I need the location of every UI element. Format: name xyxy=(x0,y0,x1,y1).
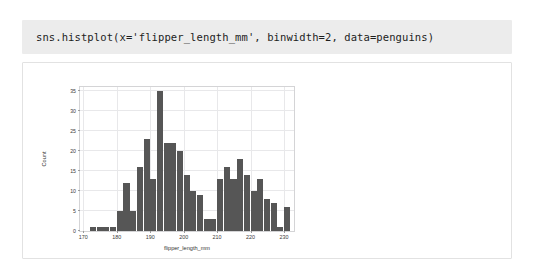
y-tick-label: 15 xyxy=(70,168,76,173)
screenshot-root: sns.histplot(x='flipper_length_mm', binw… xyxy=(0,0,540,278)
histogram-bar xyxy=(90,227,96,231)
histogram-bar xyxy=(264,199,270,231)
histogram-bar xyxy=(177,151,183,231)
x-tick-mark xyxy=(251,231,252,233)
histogram-bar xyxy=(144,139,150,231)
x-tick-mark xyxy=(184,231,185,233)
histogram-bar xyxy=(257,179,263,231)
code-cell-source[interactable]: sns.histplot(x='flipper_length_mm', binw… xyxy=(22,31,434,43)
y-axis-label: Count xyxy=(42,152,48,167)
y-tick-mark xyxy=(78,150,80,151)
x-tick-label: 210 xyxy=(213,235,222,240)
y-tick-label: 0 xyxy=(73,228,76,233)
histogram-bar xyxy=(271,203,277,231)
y-tick-label: 10 xyxy=(70,188,76,193)
x-tick-label: 230 xyxy=(279,235,288,240)
y-tick-label: 30 xyxy=(70,108,76,113)
histogram-bar xyxy=(150,179,156,231)
histogram-bar xyxy=(284,207,290,231)
histogram-bar xyxy=(217,179,223,231)
y-tick-label: 5 xyxy=(73,208,76,213)
histogram-bar xyxy=(130,211,136,231)
histogram-bar xyxy=(237,159,243,231)
y-tick-label: 20 xyxy=(70,148,76,153)
histogram-bar xyxy=(103,227,109,231)
histogram-bar xyxy=(251,191,257,231)
histogram-bar xyxy=(137,167,143,231)
x-axis-label: flipper_length_mm xyxy=(79,246,295,252)
plot-axes: 05101520253035 170180190200210220230 xyxy=(79,86,295,232)
histogram-bar xyxy=(170,143,176,231)
histogram-bar xyxy=(197,195,203,231)
x-tick-mark xyxy=(117,231,118,233)
histogram-figure: 05101520253035 170180190200210220230 fli… xyxy=(31,68,306,253)
x-tick-mark xyxy=(217,231,218,233)
y-tick-label: 25 xyxy=(70,128,76,133)
y-tick-mark xyxy=(78,110,80,111)
histogram-bar xyxy=(184,175,190,231)
histogram-bar xyxy=(244,175,250,231)
x-tick-label: 170 xyxy=(79,235,88,240)
histogram-bar xyxy=(110,227,116,231)
histogram-bar xyxy=(190,191,196,231)
x-tick-mark xyxy=(150,231,151,233)
histogram-bar xyxy=(230,179,236,231)
x-tick-label: 180 xyxy=(112,235,121,240)
y-tick-label: 35 xyxy=(70,88,76,93)
x-tick-label: 220 xyxy=(246,235,255,240)
histogram-bar xyxy=(164,143,170,231)
y-tick-mark xyxy=(78,230,80,231)
histogram-bar xyxy=(210,219,216,231)
x-tick-label: 200 xyxy=(179,235,188,240)
histogram-bar xyxy=(204,219,210,231)
histogram-bars xyxy=(80,87,294,231)
histogram-bar xyxy=(123,183,129,231)
y-tick-mark xyxy=(78,90,80,91)
code-cell[interactable]: sns.histplot(x='flipper_length_mm', binw… xyxy=(22,20,512,54)
x-tick-mark xyxy=(284,231,285,233)
y-tick-mark xyxy=(78,130,80,131)
histogram-bar xyxy=(157,91,163,231)
x-tick-label: 190 xyxy=(146,235,155,240)
histogram-bar xyxy=(277,227,283,231)
histogram-bar xyxy=(224,167,230,231)
y-tick-mark xyxy=(78,190,80,191)
histogram-bar xyxy=(117,211,123,231)
y-tick-mark xyxy=(78,170,80,171)
output-cell: 05101520253035 170180190200210220230 fli… xyxy=(22,62,512,259)
y-tick-mark xyxy=(78,210,80,211)
histogram-bar xyxy=(97,227,103,231)
x-tick-mark xyxy=(83,231,84,233)
